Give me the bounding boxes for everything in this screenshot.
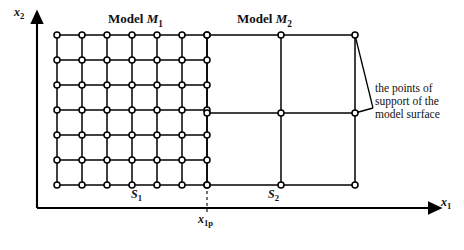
region-label-s2-symbol: S xyxy=(268,187,275,201)
x-axis-label-sub: 1 xyxy=(447,201,451,211)
annotation-line-2: support of the xyxy=(375,95,463,108)
region-label-s2: S2 xyxy=(268,188,279,204)
x1p-label: x1p xyxy=(198,213,213,229)
region-label-s1-symbol: S xyxy=(131,187,138,201)
annotation-text: the points of support of the model surfa… xyxy=(375,82,463,122)
support-point xyxy=(104,157,110,163)
support-point xyxy=(204,110,210,116)
support-point xyxy=(204,132,210,138)
support-point xyxy=(54,132,60,138)
support-point xyxy=(179,82,185,88)
support-point xyxy=(179,132,185,138)
diagram-canvas xyxy=(0,0,464,250)
support-point xyxy=(129,132,135,138)
model-1-title-sub: 1 xyxy=(158,19,163,29)
support-point xyxy=(154,107,160,113)
support-point xyxy=(352,110,358,116)
support-point xyxy=(204,32,210,38)
support-point xyxy=(79,107,85,113)
region-label-s2-sub: 2 xyxy=(275,193,279,203)
model-2-title: Model M2 xyxy=(237,12,292,29)
region-label-s1-sub: 1 xyxy=(138,193,142,203)
model-1-title-symbol: M xyxy=(147,11,159,26)
support-point xyxy=(129,57,135,63)
support-point xyxy=(129,157,135,163)
model-1-title-prefix: Model xyxy=(108,11,147,26)
y-axis-label: x2 xyxy=(14,6,24,22)
support-point xyxy=(104,132,110,138)
support-point xyxy=(204,57,210,63)
support-point xyxy=(79,82,85,88)
support-point xyxy=(179,157,185,163)
support-point xyxy=(129,82,135,88)
support-point xyxy=(54,107,60,113)
support-point xyxy=(54,32,60,38)
region-label-s1: S1 xyxy=(131,188,142,204)
support-point xyxy=(154,182,160,188)
support-point xyxy=(54,82,60,88)
x1p-label-sub: 1p xyxy=(204,218,213,228)
support-point xyxy=(104,107,110,113)
support-point xyxy=(104,82,110,88)
support-point xyxy=(204,157,210,163)
y-axis-label-sub: 2 xyxy=(20,11,24,21)
support-point xyxy=(204,82,210,88)
model-2-title-symbol: M xyxy=(276,11,288,26)
support-point xyxy=(154,57,160,63)
support-point xyxy=(104,182,110,188)
model-2-title-prefix: Model xyxy=(237,11,276,26)
support-point xyxy=(79,132,85,138)
support-point xyxy=(179,107,185,113)
support-point xyxy=(352,32,358,38)
annotation-line-3: model surface xyxy=(375,108,463,121)
support-point xyxy=(179,182,185,188)
support-point xyxy=(278,32,284,38)
support-point xyxy=(129,107,135,113)
support-point xyxy=(154,157,160,163)
support-point xyxy=(154,32,160,38)
model-1-title: Model M1 xyxy=(108,12,163,29)
support-point xyxy=(79,57,85,63)
support-point xyxy=(154,132,160,138)
support-point xyxy=(54,182,60,188)
support-point xyxy=(104,32,110,38)
x-axis-label: x1 xyxy=(441,196,451,212)
annotation-leader-lines xyxy=(355,35,373,113)
model-2-title-sub: 2 xyxy=(287,19,292,29)
support-point xyxy=(54,57,60,63)
support-point xyxy=(179,57,185,63)
support-point xyxy=(204,182,210,188)
support-point xyxy=(104,57,110,63)
annotation-line-1: the points of xyxy=(375,82,463,95)
support-point xyxy=(352,182,358,188)
support-point xyxy=(79,157,85,163)
support-point xyxy=(154,82,160,88)
support-point xyxy=(278,110,284,116)
support-point xyxy=(79,182,85,188)
support-point xyxy=(179,32,185,38)
support-point xyxy=(79,32,85,38)
support-point xyxy=(129,32,135,38)
support-point xyxy=(54,157,60,163)
